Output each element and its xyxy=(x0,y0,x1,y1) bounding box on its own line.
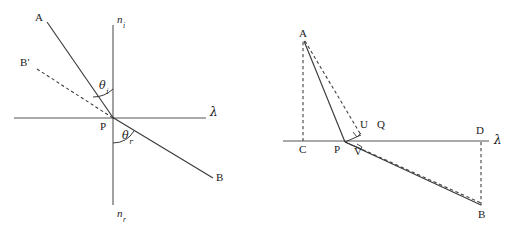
label-lambda-axis-left: λ xyxy=(210,106,218,118)
label-lambda-axis-right: λ xyxy=(494,134,502,146)
segment-AP xyxy=(304,41,345,142)
label-angle-refraction-sub: r xyxy=(129,137,133,146)
label-point-B-prime: B' xyxy=(20,57,30,68)
label-point-C: C xyxy=(299,144,307,155)
refracted-ray xyxy=(112,117,213,178)
segment-VB xyxy=(357,147,481,203)
label-point-P-left: P xyxy=(100,121,106,132)
label-angle-refraction: θr xyxy=(122,130,133,144)
label-point-V: V xyxy=(354,146,362,157)
label-angle-incidence: θi xyxy=(99,80,108,94)
label-angle-incidence-sub: i xyxy=(106,87,109,96)
label-point-B-right: B xyxy=(478,209,486,220)
label-point-D: D xyxy=(476,125,484,136)
label-normal-lower-sub: r xyxy=(123,215,126,224)
segment-AU xyxy=(305,41,361,135)
figure-canvas xyxy=(0,0,519,239)
label-normal-upper-sub: i xyxy=(123,21,125,30)
label-point-A-left: A xyxy=(35,12,43,23)
label-point-U: U xyxy=(360,119,368,130)
label-point-P-right: P xyxy=(334,144,340,155)
label-point-A-right: A xyxy=(299,28,307,39)
incident-ray xyxy=(47,22,114,119)
label-normal-upper-base: n xyxy=(117,13,123,25)
label-normal-lower-base: n xyxy=(117,207,123,219)
right-panel-group xyxy=(283,41,489,206)
label-angle-incidence-base: θ xyxy=(99,79,106,92)
label-point-B-left: B xyxy=(216,172,224,183)
figure-root: A B' B P λ ni nr θi θr A C P U Q V D B λ xyxy=(0,0,519,239)
label-angle-refraction-base: θ xyxy=(122,129,129,142)
left-panel-group xyxy=(14,22,213,205)
label-normal-lower: nr xyxy=(117,208,126,222)
label-point-Q: Q xyxy=(377,119,385,130)
segment-PB xyxy=(345,142,481,205)
label-normal-upper: ni xyxy=(117,14,125,28)
